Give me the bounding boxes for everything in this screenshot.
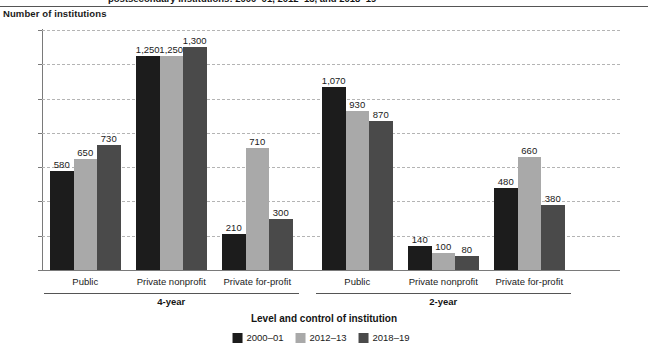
chart-legend: 2000–012012–132018–19 xyxy=(233,332,416,343)
group-rule xyxy=(44,293,299,294)
legend-swatch xyxy=(358,333,368,343)
bar-value-label: 660 xyxy=(521,145,537,156)
bar-value-label: 1,070 xyxy=(322,75,346,86)
bar-value-label: 480 xyxy=(498,176,514,187)
bar-value-label: 1,300 xyxy=(183,35,207,46)
legend-swatch xyxy=(233,333,243,343)
bar-value-label: 210 xyxy=(226,222,242,233)
bar: 650 xyxy=(74,159,98,270)
bar: 480 xyxy=(494,188,518,270)
bar: 1,250 xyxy=(160,56,184,270)
bar-value-label: 930 xyxy=(349,99,365,110)
x-axis-line xyxy=(42,270,620,271)
bar: 140 xyxy=(408,246,432,270)
group-rule xyxy=(316,293,571,294)
legend-item: 2018–19 xyxy=(358,332,409,343)
bar-value-label: 300 xyxy=(273,207,289,218)
bar: 1,070 xyxy=(322,87,346,270)
bar: 1,300 xyxy=(183,47,207,270)
bar: 300 xyxy=(269,219,293,270)
bar-value-label: 1,250 xyxy=(159,44,183,55)
legend-swatch xyxy=(296,333,306,343)
bar-value-label: 380 xyxy=(545,193,561,204)
bar: 100 xyxy=(432,253,456,270)
plot-area: 02004006008001,0001,2001,4005806507301,2… xyxy=(42,30,620,270)
legend-label: 2012–13 xyxy=(310,332,347,343)
bar: 580 xyxy=(50,171,74,270)
bar-value-label: 1,250 xyxy=(136,44,160,55)
legend-item: 2012–13 xyxy=(296,332,347,343)
y-tick-mark xyxy=(38,167,42,168)
bar: 80 xyxy=(455,256,479,270)
bar-value-label: 140 xyxy=(412,234,428,245)
bar: 930 xyxy=(346,111,370,270)
y-tick-mark xyxy=(38,133,42,134)
legend-item: 2000–01 xyxy=(233,332,284,343)
bar-value-label: 650 xyxy=(77,147,93,158)
bar-value-label: 870 xyxy=(373,109,389,120)
category-label: Private for-profit xyxy=(495,276,563,287)
bar: 710 xyxy=(246,148,270,270)
bar: 1,250 xyxy=(136,56,160,270)
bar-value-label: 80 xyxy=(461,244,472,255)
legend-label: 2018–19 xyxy=(372,332,409,343)
gridline xyxy=(42,64,620,65)
bar-value-label: 100 xyxy=(435,241,451,252)
x-axis-title: Level and control of institution xyxy=(251,313,397,324)
group-label: 4-year xyxy=(157,296,185,307)
category-label: Public xyxy=(344,276,370,287)
bar: 380 xyxy=(541,205,565,270)
bar: 870 xyxy=(369,121,393,270)
bar: 730 xyxy=(97,145,121,270)
bar-value-label: 710 xyxy=(249,136,265,147)
category-label: Public xyxy=(72,276,98,287)
bar-value-label: 730 xyxy=(101,133,117,144)
bar: 660 xyxy=(518,157,542,270)
y-tick-mark xyxy=(38,236,42,237)
category-label: Private nonprofit xyxy=(137,276,206,287)
legend-label: 2000–01 xyxy=(247,332,284,343)
y-tick-mark xyxy=(38,30,42,31)
y-axis-caption: Number of institutions xyxy=(3,8,107,19)
category-label: Private for-profit xyxy=(223,276,291,287)
bar-value-label: 580 xyxy=(54,159,70,170)
y-tick-mark xyxy=(38,64,42,65)
figure-title: postsecondary institutions: 2000–01, 201… xyxy=(108,0,376,4)
title-divider xyxy=(0,6,648,7)
y-tick-mark xyxy=(38,201,42,202)
category-label: Private nonprofit xyxy=(409,276,478,287)
y-tick-mark xyxy=(38,99,42,100)
gridline xyxy=(42,30,620,31)
y-tick-mark xyxy=(38,270,42,271)
bar: 210 xyxy=(222,234,246,270)
group-label: 2-year xyxy=(429,296,457,307)
